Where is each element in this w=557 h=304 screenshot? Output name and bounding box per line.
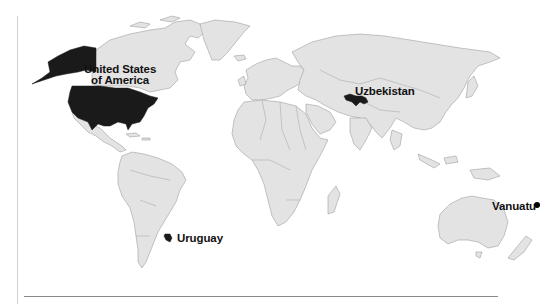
label-uruguay: Uruguay [177, 233, 223, 244]
world-map [0, 0, 557, 304]
vanuatu-marker-dot [534, 202, 540, 208]
label-united-states-line2: of America [84, 75, 156, 86]
greenland [200, 20, 250, 60]
label-united-states: United States of America [84, 64, 156, 86]
frame-bottom-rule [24, 296, 498, 297]
europe [244, 58, 306, 100]
uruguay [164, 234, 172, 242]
india [350, 118, 372, 150]
label-uzbekistan: Uzbekistan [355, 86, 415, 97]
label-vanuatu: Vanuatu [492, 201, 536, 212]
south-america [118, 152, 186, 268]
